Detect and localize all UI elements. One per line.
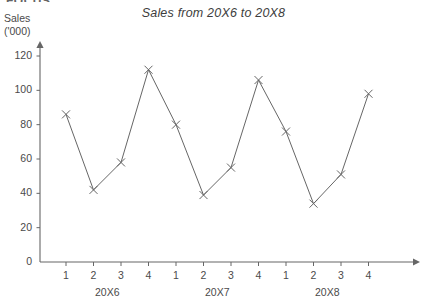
chart-svg (0, 0, 427, 303)
x-tick-label: 3 (332, 269, 350, 281)
x-tick-label: 2 (305, 269, 323, 281)
x-axis-arrowhead (413, 258, 420, 265)
x-tick-label: 4 (250, 269, 268, 281)
x-tick-label: 2 (85, 269, 103, 281)
data-point-marker (200, 191, 208, 199)
data-point-marker (90, 186, 98, 194)
chart-tick-marks (37, 56, 369, 266)
chart-page: FOCUS: Sales ('000) Sales from 20X6 to 2… (0, 0, 427, 303)
y-tick-label: 60 (6, 152, 32, 164)
y-tick-label: 20 (6, 221, 32, 233)
chart-axes (36, 41, 420, 266)
x-tick-label: 1 (167, 269, 185, 281)
x-tick-label: 4 (360, 269, 378, 281)
data-point-marker (255, 76, 263, 84)
y-axis-arrowhead (36, 41, 43, 48)
y-tick-label: 80 (6, 118, 32, 130)
x-tick-label: 4 (140, 269, 158, 281)
y-tick-label: 100 (6, 83, 32, 95)
y-tick-label: 40 (6, 186, 32, 198)
data-point-marker (337, 170, 345, 178)
x-group-label: 20X7 (187, 286, 247, 298)
y-tick-label: 120 (6, 49, 32, 61)
sales-data-markers (62, 66, 373, 208)
x-tick-label: 3 (222, 269, 240, 281)
data-point-marker (310, 200, 318, 208)
data-point-marker (62, 110, 70, 118)
x-group-label: 20X8 (297, 286, 357, 298)
x-group-label: 20X6 (77, 286, 137, 298)
data-point-marker (172, 121, 180, 129)
sales-series-line (66, 70, 369, 204)
data-point-marker (117, 158, 125, 166)
data-point-marker (227, 164, 235, 172)
data-point-marker (145, 66, 153, 74)
x-tick-label: 1 (277, 269, 295, 281)
data-point-marker (365, 90, 373, 98)
x-tick-label: 1 (57, 269, 75, 281)
line-chart-plot: 020406080100120 123412341234 20X620X720X… (0, 0, 427, 303)
y-tick-label: 0 (6, 255, 32, 267)
x-tick-label: 2 (195, 269, 213, 281)
x-tick-label: 3 (112, 269, 130, 281)
data-point-marker (282, 128, 290, 136)
